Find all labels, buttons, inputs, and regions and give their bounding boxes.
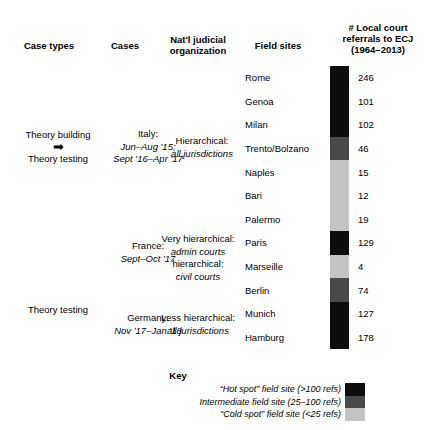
table-row: Munich 127	[243, 302, 441, 326]
referral-count: 74	[349, 285, 369, 296]
field-site-name: Hamburg	[243, 332, 330, 343]
referral-intensity-swatch	[330, 302, 349, 326]
table-row: Paris 129	[243, 231, 441, 255]
field-site-name: Trento/Bolzano	[243, 143, 330, 154]
judicial-organization-germany: Less hierarchical: all jurisdictions	[152, 312, 244, 337]
field-site-name: Marseille	[243, 261, 330, 272]
figure-table: Case types Cases Nat'l judicial organiza…	[0, 0, 441, 430]
case-type-group-italy: Theory building ➡ Theory testing	[8, 128, 108, 165]
table-row: Rome 246	[243, 66, 441, 90]
legend-entries: “Hot spot” field site (>100 refs) Interm…	[0, 383, 441, 421]
column-header-referrals-line3: (1964–2013)	[351, 44, 405, 55]
referral-count: 15	[349, 167, 369, 178]
referral-count: 178	[349, 332, 374, 343]
judicial-organization-italy: Hierarchical: all jurisdictions	[156, 135, 248, 160]
legend-entry: “Hot spot” field site (>100 refs)	[0, 383, 441, 396]
legend-swatch	[345, 383, 365, 396]
field-site-name: Berlin	[243, 285, 330, 296]
referral-count: 102	[349, 119, 374, 130]
table-row: Trento/Bolzano 46	[243, 137, 441, 161]
judicial-organization-italy-type: Hierarchical:	[156, 135, 248, 148]
table-row: Genoa 101	[243, 90, 441, 114]
referral-count: 12	[349, 190, 369, 201]
field-site-name: Munich	[243, 308, 330, 319]
judicial-organization-france-type-civil: hierarchical:	[152, 258, 244, 271]
referral-intensity-swatch	[330, 113, 349, 137]
field-site-name: Bari	[243, 190, 330, 201]
field-site-name: Rome	[243, 72, 330, 83]
column-header-referrals-line2: referrals to ECJ	[343, 33, 414, 44]
referral-intensity-swatch	[330, 137, 349, 161]
legend-entry: Intermediate field site (25–100 refs)	[0, 396, 441, 409]
field-site-name: Genoa	[243, 96, 330, 107]
case-type-group-germany: Theory testing	[8, 303, 108, 316]
judicial-organization-france-scope-civil: civil courts	[152, 271, 244, 284]
table-row: Palermo 19	[243, 208, 441, 232]
arrow-right-icon: ➡	[8, 141, 108, 152]
referral-count: 46	[349, 143, 369, 154]
field-site-name: Palermo	[243, 214, 330, 225]
referral-count: 4	[349, 261, 363, 272]
field-sites-list: Rome 246 Genoa 101 Milan 102 Trento/Bolz…	[243, 66, 441, 349]
referral-intensity-swatch	[330, 231, 349, 255]
judicial-organization-france-scope-admin: admin courts	[152, 246, 244, 259]
referral-count: 129	[349, 237, 374, 248]
referral-count: 19	[349, 214, 369, 225]
field-site-name: Milan	[243, 119, 330, 130]
referral-intensity-swatch	[330, 255, 349, 279]
legend-swatch	[345, 396, 365, 409]
legend-label: Intermediate field site (25–100 refs)	[199, 396, 341, 408]
case-type-theory-testing-germany: Theory testing	[8, 303, 108, 316]
referral-intensity-swatch	[330, 184, 349, 208]
legend: Key “Hot spot” field site (>100 refs) In…	[0, 370, 441, 421]
referral-intensity-swatch	[330, 326, 349, 350]
legend-entry: “Cold spot” field site (<25 refs)	[0, 408, 441, 421]
table-row: Berlin 74	[243, 278, 441, 302]
referral-count: 127	[349, 308, 374, 319]
legend-title: Key	[18, 370, 338, 382]
table-row: Bari 12	[243, 184, 441, 208]
judicial-organization-france-type-admin: Very hierarchical:	[152, 233, 244, 246]
table-row: Marseille 4	[243, 255, 441, 279]
column-header-referrals-line1: # Local court	[348, 22, 407, 33]
judicial-organization-germany-type: Less hierarchical:	[152, 312, 244, 325]
referral-count: 101	[349, 96, 374, 107]
legend-label: “Cold spot” field site (<25 refs)	[220, 408, 341, 420]
referral-intensity-swatch	[330, 66, 349, 90]
referral-intensity-swatch	[330, 160, 349, 184]
referral-count: 246	[349, 72, 374, 83]
referral-intensity-swatch	[330, 208, 349, 232]
judicial-organization-france: Very hierarchical: admin courts hierarch…	[152, 233, 244, 283]
field-site-name: Paris	[243, 237, 330, 248]
table-row: Milan 102	[243, 113, 441, 137]
table-row: Hamburg 178	[243, 326, 441, 350]
referral-intensity-swatch	[330, 278, 349, 302]
judicial-organization-germany-scope: all jurisdictions	[152, 325, 244, 338]
legend-swatch	[345, 408, 365, 421]
referral-intensity-swatch	[330, 90, 349, 114]
field-site-name: Naples	[243, 167, 330, 178]
legend-label: “Hot spot” field site (>100 refs)	[220, 383, 341, 395]
judicial-organization-italy-scope: all jurisdictions	[156, 148, 248, 161]
table-row: Naples 15	[243, 160, 441, 184]
case-type-theory-testing: Theory testing	[8, 152, 108, 165]
column-header-referrals: # Local court referrals to ECJ (1964–201…	[322, 22, 434, 55]
